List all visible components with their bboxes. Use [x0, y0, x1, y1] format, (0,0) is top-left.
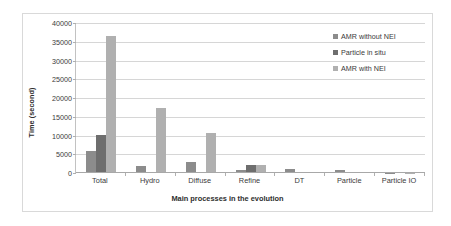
bar [206, 133, 216, 174]
x-axis-tick-label: Total [75, 176, 125, 185]
legend-swatch-icon [333, 34, 338, 39]
x-axis-tick-label: Particle [324, 176, 374, 185]
bar [86, 151, 96, 173]
y-axis-tick-label: 20000 [52, 94, 72, 103]
bar-chart-figure: Time (second) 05000100001500020000250003… [22, 13, 433, 212]
y-axis-tickmark [73, 173, 76, 174]
bar-group [126, 23, 176, 173]
x-axis-line [76, 172, 425, 173]
x-axis-tick-label: DT [274, 176, 324, 185]
y-axis-tick-labels: 0500010000150002000025000300003500040000 [39, 23, 72, 173]
bar-group [176, 23, 226, 173]
x-axis-tick-label: Particle IO [374, 176, 424, 185]
legend-item-label: Particle in situ [341, 48, 386, 57]
bar-group [226, 23, 276, 173]
y-axis-tick-label: 25000 [52, 75, 72, 84]
legend-swatch-icon [333, 66, 338, 71]
legend-item-label: AMR without NEI [341, 32, 396, 41]
legend-swatch-icon [333, 50, 338, 55]
y-axis-tick-label: 15000 [52, 112, 72, 121]
x-axis-tick-label: Diffuse [175, 176, 225, 185]
x-axis-tick-labels: TotalHydroDiffuseRefineDTParticleParticl… [75, 176, 424, 185]
y-axis-tick-label: 35000 [52, 37, 72, 46]
bar-group [275, 23, 325, 173]
y-axis-tick-label: 5000 [56, 150, 72, 159]
legend-item[interactable]: Particle in situ [333, 44, 396, 60]
y-axis-tick-label: 10000 [52, 131, 72, 140]
y-axis-tick-label: 30000 [52, 56, 72, 65]
legend-item[interactable]: AMR with NEI [333, 60, 396, 76]
legend-item-label: AMR with NEI [341, 64, 386, 73]
y-axis-tick-label: 40000 [52, 19, 72, 28]
x-axis-title: Main processes in the evolution [23, 194, 432, 203]
x-axis-tick-label: Refine [225, 176, 275, 185]
bar [156, 108, 166, 173]
legend-item[interactable]: AMR without NEI [333, 28, 396, 44]
bar [106, 36, 116, 173]
y-axis-title: Time (second) [25, 14, 39, 211]
x-axis-tick-label: Hydro [125, 176, 175, 185]
bar [96, 135, 106, 173]
chart-legend: AMR without NEIParticle in situAMR with … [333, 28, 396, 76]
y-axis-tick-label: 0 [68, 169, 72, 178]
y-axis-title-label: Time (second) [28, 88, 37, 138]
bar-group [76, 23, 126, 173]
